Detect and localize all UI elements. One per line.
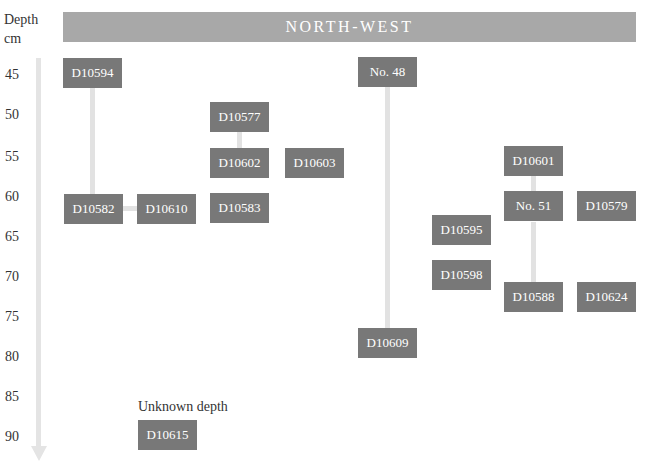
sample-d10624[interactable]: D10624 [577,282,636,312]
tick-65: 65 [5,229,19,245]
sample-d10603[interactable]: D10603 [285,148,344,178]
sample-d10615[interactable]: D10615 [138,420,197,450]
connector-no48-d10609 [385,86,390,328]
sample-d10577[interactable]: D10577 [210,102,269,132]
sample-d10588[interactable]: D10588 [504,282,563,312]
connector-d10582-d10610 [122,206,137,211]
sample-d10579[interactable]: D10579 [577,191,636,221]
tick-80: 80 [5,349,19,365]
sample-d10595[interactable]: D10595 [432,215,491,245]
connector-d10577-d10602 [237,132,242,148]
tick-75: 75 [5,309,19,325]
connector-no51-d10588 [531,222,536,282]
sample-d10594[interactable]: D10594 [63,58,122,88]
tick-50: 50 [5,107,19,123]
tick-45: 45 [5,67,19,83]
tick-60: 60 [5,189,19,205]
sample-d10610[interactable]: D10610 [137,194,196,224]
sample-d10582[interactable]: D10582 [64,194,123,224]
connector-d10601-no51 [531,176,536,191]
axis-title: Depth cm [4,10,38,48]
depth-axis-line [36,58,41,450]
sample-no51[interactable]: No. 51 [504,191,563,221]
arrow-down-icon [31,446,47,461]
tick-55: 55 [5,149,19,165]
sample-d10601[interactable]: D10601 [504,146,563,176]
tick-90: 90 [5,429,19,445]
region-header: NORTH-WEST [63,12,636,42]
sample-d10583[interactable]: D10583 [210,193,269,223]
axis-title-depth: Depth [4,10,38,29]
unknown-depth-label: Unknown depth [138,399,228,415]
sample-d10602[interactable]: D10602 [210,148,269,178]
axis-title-unit: cm [4,29,38,48]
sample-d10598[interactable]: D10598 [432,260,491,290]
connector-d10594-d10582 [90,87,95,194]
sample-no48[interactable]: No. 48 [358,57,417,87]
tick-85: 85 [5,389,19,405]
tick-70: 70 [5,269,19,285]
sample-d10609[interactable]: D10609 [358,328,417,358]
